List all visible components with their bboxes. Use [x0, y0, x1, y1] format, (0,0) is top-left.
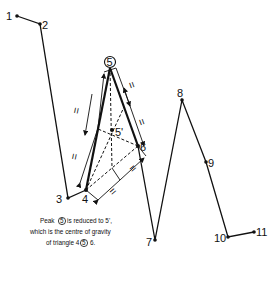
- label-5: 5: [107, 56, 113, 68]
- vertex-3: [66, 196, 70, 200]
- vertex-1: [15, 14, 19, 18]
- vertex-5p: [110, 128, 114, 132]
- label-1: 1: [6, 10, 12, 22]
- vertex-4: [84, 188, 88, 192]
- label-2: 2: [42, 19, 48, 31]
- dim-right-c: [124, 88, 130, 106]
- dim-tick-3: [112, 168, 120, 180]
- caption-circled-5a: 5: [60, 217, 64, 224]
- polyline-6-11: [138, 100, 254, 240]
- label-11: 11: [256, 226, 267, 238]
- equal-mark: =: [70, 106, 83, 115]
- caption-line3-pre: of triangle 4: [46, 239, 80, 247]
- label-6: 6: [140, 141, 146, 153]
- caption-line1-post: is reduced to 5',: [67, 217, 112, 224]
- dim-left-c: [85, 94, 92, 135]
- equal-mark: =: [106, 184, 119, 197]
- polyline-1-4: [17, 16, 86, 198]
- equal-mark: =: [135, 117, 148, 127]
- label-9: 9: [208, 157, 214, 169]
- caption-line2: which is the centre of gravity: [29, 228, 111, 236]
- label-8: 8: [177, 87, 183, 99]
- peak-reduction-diagram: = = = = = = 1 2 3 4 5 5' 6 7 8 9 10 11 P…: [0, 0, 275, 291]
- label-10: 10: [214, 232, 226, 244]
- caption-line1-pre: Peak: [40, 217, 55, 224]
- label-3: 3: [56, 193, 62, 205]
- label-5-prime: 5': [115, 126, 123, 138]
- vertex-10: [226, 235, 230, 239]
- caption-line3-post: 6.: [90, 239, 96, 246]
- vertex-7: [153, 238, 157, 242]
- caption-circled-5b: 5: [82, 239, 86, 246]
- diagram-canvas: = = = = = = 1 2 3 4 5 5' 6 7 8 9 10 11 P…: [0, 0, 275, 291]
- label-4: 4: [82, 193, 88, 205]
- median-5: [110, 68, 112, 168]
- equal-mark: =: [125, 80, 138, 90]
- equal-mark: =: [68, 152, 81, 161]
- caption: Peak 5 is reduced to 5', which is the ce…: [29, 217, 112, 247]
- label-7: 7: [146, 236, 152, 248]
